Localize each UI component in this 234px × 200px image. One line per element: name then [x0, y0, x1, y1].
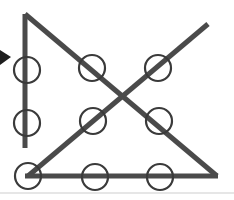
geometric-figure: [0, 0, 234, 200]
figure-canvas: [0, 0, 234, 200]
